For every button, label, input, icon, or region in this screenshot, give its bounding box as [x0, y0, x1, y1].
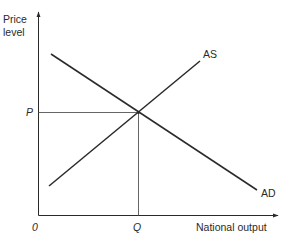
price-marker-label: P — [26, 106, 33, 118]
ad-curve-label: AD — [261, 187, 276, 199]
as-curve-label: AS — [203, 48, 217, 60]
y-axis-label-line2: level — [3, 26, 27, 39]
ad-curve — [51, 54, 257, 190]
equilibrium-point — [137, 111, 140, 114]
origin-label: 0 — [32, 221, 38, 233]
as-curve — [49, 61, 200, 186]
quantity-marker-label: Q — [133, 221, 141, 233]
ad-as-diagram — [0, 0, 308, 244]
x-axis-label: National output — [196, 221, 267, 233]
y-axis-label-line1: Price — [3, 13, 27, 26]
y-axis-label: Price level — [3, 13, 27, 39]
